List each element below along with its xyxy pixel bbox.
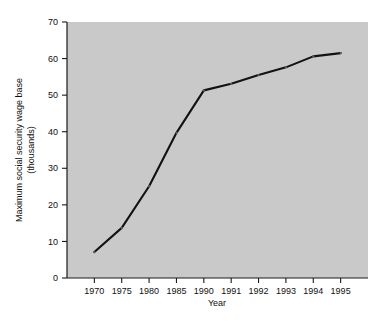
- y-tick-label: 60: [48, 54, 58, 64]
- x-axis: 1970197519801985199019911992199319941995: [67, 278, 368, 296]
- x-tick-label: 1993: [276, 286, 296, 296]
- y-tick-label: 50: [48, 90, 58, 100]
- x-tick-label: 1994: [303, 286, 323, 296]
- y-tick-label: 10: [48, 237, 58, 247]
- x-tick-label: 1975: [112, 286, 132, 296]
- y-tick-label: 40: [48, 127, 58, 137]
- x-tick-group: 1970197519801985199019911992199319941995: [84, 278, 350, 296]
- data-point: [121, 227, 123, 229]
- data-point: [340, 52, 342, 54]
- y-tick-group: 010203040506070: [48, 17, 67, 283]
- x-tick-label: 1990: [194, 286, 214, 296]
- y-axis-title-line-1: Maximum social security wage base: [14, 78, 24, 222]
- y-tick-label: 20: [48, 200, 58, 210]
- data-point: [203, 89, 205, 91]
- data-point: [257, 74, 259, 76]
- y-axis-title-line-2: (thousands): [26, 126, 36, 174]
- plot-background: [67, 22, 368, 278]
- chart-figure: 010203040506070 197019751980198519901991…: [0, 0, 383, 321]
- x-axis-title: Year: [208, 298, 226, 308]
- x-tick-label: 1995: [331, 286, 351, 296]
- data-point: [230, 83, 232, 85]
- data-point: [175, 132, 177, 134]
- x-tick-label: 1980: [139, 286, 159, 296]
- data-point: [93, 251, 95, 253]
- y-tick-label: 0: [53, 273, 58, 283]
- y-tick-label: 70: [48, 17, 58, 27]
- y-axis: 010203040506070: [48, 17, 67, 283]
- data-point: [285, 66, 287, 68]
- x-tick-label: 1992: [249, 286, 269, 296]
- x-tick-label: 1970: [84, 286, 104, 296]
- y-tick-label: 30: [48, 163, 58, 173]
- x-tick-label: 1985: [166, 286, 186, 296]
- x-tick-label: 1991: [221, 286, 241, 296]
- line-chart: 010203040506070 197019751980198519901991…: [0, 0, 383, 321]
- data-point: [148, 185, 150, 187]
- data-point: [312, 55, 314, 57]
